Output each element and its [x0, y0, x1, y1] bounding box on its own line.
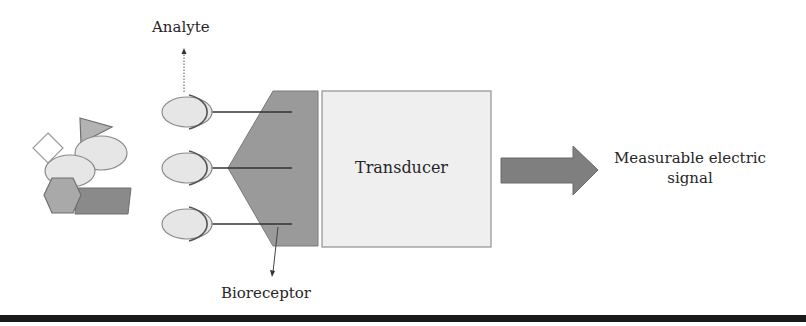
- bottom-rule: [0, 315, 806, 322]
- output-signal-label: Measurable electric signal: [605, 148, 775, 188]
- output-arrow-icon: [501, 146, 598, 195]
- analyte-mixture: [33, 118, 131, 214]
- parallelogram-shape: [75, 188, 131, 214]
- hexagon-shape: [44, 178, 81, 213]
- bioreceptor-label: Bioreceptor: [221, 284, 311, 302]
- bound-analyte: [162, 151, 212, 185]
- bound-analyte: [162, 95, 212, 129]
- analyte-pointer-arrow: [182, 48, 187, 92]
- transducer-label: Transducer: [355, 158, 448, 177]
- analyte-label: Analyte: [152, 18, 210, 36]
- bound-analyte: [162, 207, 212, 241]
